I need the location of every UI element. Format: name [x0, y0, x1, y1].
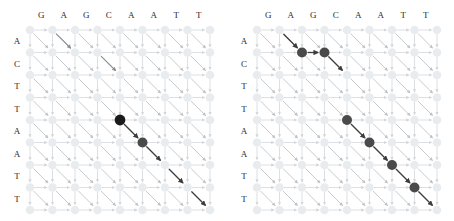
lattice-node: [253, 93, 262, 102]
lattice-edge-diagonal: [56, 56, 71, 71]
lattice-node: [93, 161, 102, 170]
lattice-node: [365, 71, 374, 80]
lattice-edge-diagonal: [373, 79, 388, 94]
lattice-edge-diagonal: [124, 56, 139, 71]
lattice-edge-diagonal: [373, 169, 388, 184]
lattice-node: [343, 93, 352, 102]
lattice-edge-diagonal: [396, 34, 411, 49]
highlighted-edge: [418, 191, 432, 205]
lattice-node: [161, 26, 170, 35]
lattice-node: [275, 138, 284, 147]
lattice-node: [183, 71, 192, 80]
lattice-node: [298, 161, 307, 170]
lattice-node: [206, 183, 215, 192]
lattice-node: [433, 26, 442, 35]
lattice-node: [410, 116, 419, 125]
lattice-node: [206, 138, 215, 147]
left-panel-graph: [0, 0, 227, 221]
lattice-node: [320, 161, 329, 170]
lattice-edge-diagonal: [79, 124, 94, 139]
lattice-node: [26, 26, 35, 35]
lattice-node: [93, 93, 102, 102]
lattice-node: [343, 48, 352, 57]
lattice-node: [161, 183, 170, 192]
highlighted-node: [342, 115, 352, 125]
lattice-node: [116, 48, 125, 57]
lattice-edge-diagonal: [261, 34, 276, 49]
lattice-edge-diagonal: [124, 34, 139, 49]
highlighted-edge: [373, 146, 387, 160]
lattice-node: [48, 183, 57, 192]
lattice-node: [410, 138, 419, 147]
lattice-node: [161, 48, 170, 57]
highlighted-edge: [283, 34, 297, 48]
lattice-node: [253, 71, 262, 80]
lattice-edge-diagonal: [283, 146, 298, 161]
lattice-node: [116, 161, 125, 170]
lattice-node: [320, 116, 329, 125]
lattice-edge-diagonal: [306, 56, 321, 71]
lattice-node: [116, 183, 125, 192]
lattice-node: [298, 93, 307, 102]
lattice-node: [71, 206, 80, 215]
lattice-edge-diagonal: [191, 56, 206, 71]
lattice-edge-diagonal: [351, 146, 366, 161]
lattice-edge-diagonal: [101, 191, 116, 206]
lattice-node: [275, 48, 284, 57]
lattice-node: [71, 48, 80, 57]
lattice-node: [206, 116, 215, 125]
lattice-edge-diagonal: [306, 169, 321, 184]
lattice-node: [275, 161, 284, 170]
lattice-node: [48, 48, 57, 57]
lattice-node: [253, 26, 262, 35]
lattice-edge-diagonal: [373, 191, 388, 206]
lattice-node: [365, 48, 374, 57]
lattice-node: [71, 116, 80, 125]
lattice-node: [365, 26, 374, 35]
lattice-edge-diagonal: [101, 79, 116, 94]
lattice-edge-diagonal: [328, 191, 343, 206]
lattice-edge-diagonal: [306, 146, 321, 161]
lattice-node: [320, 183, 329, 192]
lattice-edge-diagonal: [34, 34, 49, 49]
lattice-node: [410, 48, 419, 57]
lattice-node: [253, 183, 262, 192]
lattice-node: [183, 138, 192, 147]
lattice-node: [183, 161, 192, 170]
lattice-node: [388, 116, 397, 125]
lattice-node: [116, 71, 125, 80]
highlighted-edge: [146, 146, 160, 160]
lattice-node: [206, 48, 215, 57]
lattice-edge-diagonal: [418, 79, 433, 94]
lattice-node: [48, 26, 57, 35]
lattice-node: [206, 26, 215, 35]
lattice-edge-diagonal: [191, 146, 206, 161]
right-panel-graph: [227, 0, 454, 221]
lattice-node: [365, 116, 374, 125]
lattice-node: [253, 161, 262, 170]
lattice-edge-diagonal: [79, 79, 94, 94]
lattice-edge-diagonal: [169, 146, 184, 161]
lattice-node: [365, 93, 374, 102]
lattice-edge-diagonal: [261, 169, 276, 184]
lattice-node: [388, 206, 397, 215]
lattice-edge-diagonal: [328, 101, 343, 116]
lattice-node: [206, 71, 215, 80]
lattice-node: [365, 183, 374, 192]
lattice-node: [161, 206, 170, 215]
lattice-edge-diagonal: [34, 191, 49, 206]
lattice-node: [26, 183, 35, 192]
lattice-edge-diagonal: [328, 124, 343, 139]
lattice-node: [48, 93, 57, 102]
lattice-edge-diagonal: [169, 79, 184, 94]
lattice-edge-diagonal: [283, 191, 298, 206]
lattice-node: [343, 71, 352, 80]
lattice-node: [26, 93, 35, 102]
lattice-node: [161, 116, 170, 125]
lattice-node: [71, 93, 80, 102]
lattice-node: [93, 26, 102, 35]
lattice-edge-diagonal: [306, 34, 321, 49]
lattice-node: [433, 71, 442, 80]
lattice-edge-diagonal: [169, 191, 184, 206]
lattice-node: [320, 26, 329, 35]
